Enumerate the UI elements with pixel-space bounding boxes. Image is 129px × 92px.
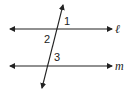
diagram-canvas: ℓ m 1 2 3	[0, 0, 129, 92]
angle-2-label: 2	[44, 33, 50, 45]
transversal	[42, 5, 63, 88]
line-m-label: m	[115, 59, 124, 73]
line-l-label: ℓ	[115, 22, 120, 36]
angle-3-label: 3	[54, 51, 60, 63]
angle-1-label: 1	[64, 15, 70, 27]
